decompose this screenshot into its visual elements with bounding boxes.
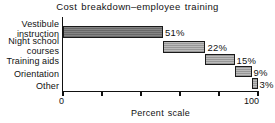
bar-value-vestibule-instruction: 51% <box>165 28 185 38</box>
bar-value-orientation: 9% <box>254 68 268 78</box>
category-label-orientation: Orientation <box>14 70 59 80</box>
category-label-training-aids: Training aids <box>7 57 60 67</box>
cost-breakdown-chart: Cost breakdown–employee training 0 100 P… <box>0 0 275 123</box>
bar-value-other: 3% <box>260 80 274 90</box>
x-axis-title: Percent scale <box>63 108 258 118</box>
x-tick-80 <box>218 92 219 96</box>
x-tick-label-100: 100 <box>244 96 259 107</box>
bar-night-school-courses <box>163 41 206 53</box>
bar-value-training-aids: 15% <box>237 56 257 66</box>
x-tick-20 <box>101 92 102 96</box>
category-label-other: Other <box>36 82 59 92</box>
x-tick-60 <box>179 92 180 96</box>
bar-orientation <box>235 66 253 77</box>
bar-value-night-school-courses: 22% <box>208 43 228 53</box>
x-tick-label-0: 0 <box>59 96 64 107</box>
bar-training-aids <box>205 54 234 65</box>
bar-other <box>252 78 258 89</box>
x-axis-line <box>62 91 259 92</box>
x-tick-40 <box>140 92 141 96</box>
category-label-night-school-courses: Night school courses <box>8 37 59 56</box>
chart-title: Cost breakdown–employee training <box>0 1 275 12</box>
bar-vestibule-instruction <box>63 26 163 38</box>
